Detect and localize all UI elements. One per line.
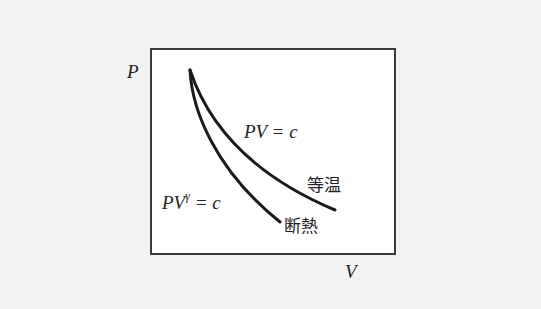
plot-frame [151, 49, 395, 254]
y-axis-label: P [127, 62, 139, 81]
adiabatic-equation-base: PV [162, 192, 185, 213]
pv-diagram: P V PV = c 等温 PVγ = c 断熱 [0, 0, 541, 309]
adiabatic-label: 断熱 [284, 218, 318, 235]
diagram-canvas [0, 0, 541, 309]
isothermal-label: 等温 [307, 177, 341, 194]
x-axis-label: V [345, 262, 357, 281]
adiabatic-exponent: γ [185, 189, 190, 203]
adiabatic-equation: PVγ = c [162, 192, 221, 212]
isothermal-equation: PV = c [244, 122, 298, 141]
adiabatic-equation-rest: = c [190, 192, 221, 213]
